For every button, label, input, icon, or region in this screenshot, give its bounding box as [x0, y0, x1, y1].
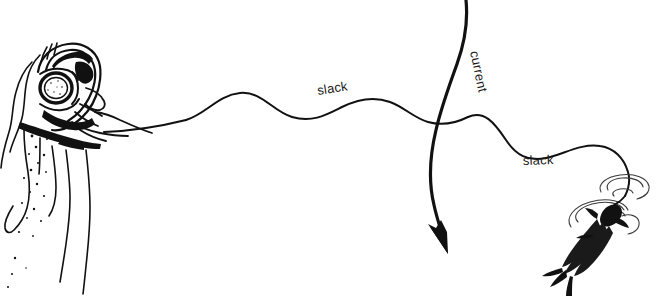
diver-slack-line-illustration: slack slack current: [0, 0, 667, 296]
mask-lens: [40, 73, 72, 103]
label-slack-right: slack: [523, 152, 554, 168]
